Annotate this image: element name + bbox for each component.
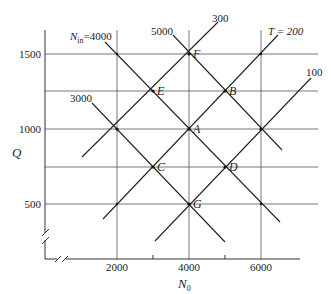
x-tick-4000: 4000	[178, 261, 201, 273]
y-tick-1500: 1500	[19, 48, 42, 60]
t-300-label: 300	[212, 12, 229, 24]
y-tick-1000: 1000	[19, 123, 42, 135]
point-label-a: A	[192, 122, 201, 136]
nin-5000-label: 5000	[151, 25, 174, 37]
y-tick-500: 500	[25, 198, 42, 210]
point-label-g: G	[193, 197, 202, 211]
x-tick-2000: 2000	[106, 261, 129, 273]
point-label-c: C	[157, 160, 166, 174]
nin-t-diagram: F E B A C D G Nin=4000 3000 5000 300 T =…	[0, 0, 331, 294]
point-label-b: B	[229, 84, 237, 98]
point-label-f: F	[192, 47, 201, 61]
point-label-d: D	[228, 160, 238, 174]
x-axis-title: N0	[177, 276, 191, 293]
x-tick-6000: 6000	[250, 261, 273, 273]
point-label-e: E	[156, 84, 165, 98]
t-200-line	[103, 35, 278, 219]
t-200-label: T = 200	[268, 25, 304, 37]
nin-3000-label: 3000	[70, 92, 93, 104]
t-100-label: 100	[306, 66, 323, 78]
y-axis-title: Q	[12, 145, 22, 160]
